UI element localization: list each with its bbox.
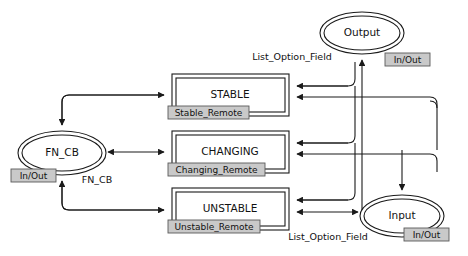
node-unstable[interactable]: UNSTABLE Unstable_Remote bbox=[168, 188, 289, 233]
stable-label: STABLE bbox=[210, 88, 249, 100]
unstable-remote-badge-label: Unstable_Remote bbox=[174, 222, 253, 232]
input-inout-badge-label: In/Out bbox=[413, 230, 441, 240]
unstable-label: UNSTABLE bbox=[203, 202, 258, 214]
stable-remote-badge-label: Stable_Remote bbox=[175, 108, 243, 118]
output-label: Output bbox=[344, 26, 380, 38]
fn-cb-label: FN_CB bbox=[45, 146, 79, 159]
input-label: Input bbox=[388, 209, 415, 221]
edge-stable-to-input-elbow bbox=[430, 97, 437, 150]
edge-fncb-stable-to-ellipse bbox=[62, 95, 164, 125]
diagram-svg: STABLE Stable_Remote CHANGING Changing_R… bbox=[0, 0, 468, 256]
edge-stable-from-output bbox=[297, 62, 355, 86]
edge-feeder-join-upper bbox=[430, 101, 437, 108]
edge-fncb-unstable-to-ellipse bbox=[62, 181, 164, 210]
edge-label-top-list-option: List_Option_Field bbox=[252, 51, 332, 62]
node-changing[interactable]: CHANGING Changing_Remote bbox=[168, 131, 289, 176]
changing-remote-badge-label: Changing_Remote bbox=[175, 165, 258, 175]
node-stable[interactable]: STABLE Stable_Remote bbox=[168, 74, 289, 119]
output-inout-badge-label: In/Out bbox=[394, 55, 422, 65]
edge-label-fn-cb: FN_CB bbox=[82, 174, 112, 185]
fn-cb-inout-badge-label: In/Out bbox=[20, 171, 48, 181]
edge-fncb-unstable-to-box bbox=[62, 181, 164, 210]
edge-label-bottom-list-option: List_Option_Field bbox=[288, 231, 368, 242]
changing-label: CHANGING bbox=[201, 145, 259, 157]
node-output[interactable]: Output In/Out bbox=[320, 12, 430, 66]
diagram-canvas: STABLE Stable_Remote CHANGING Changing_R… bbox=[0, 0, 468, 256]
edge-unstable-from-output bbox=[297, 143, 355, 200]
edge-changing-to-input-elbow bbox=[430, 154, 437, 172]
node-input[interactable]: Input In/Out bbox=[360, 195, 449, 241]
edge-fncb-stable-to-box bbox=[62, 95, 164, 125]
edge-changing-from-output bbox=[297, 86, 355, 143]
